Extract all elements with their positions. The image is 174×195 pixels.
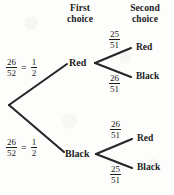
branch-red-to-red bbox=[95, 48, 131, 63]
fraction-numerator: 1 bbox=[31, 57, 38, 68]
fraction-denominator: 2 bbox=[31, 148, 38, 158]
fraction-numerator: 25 bbox=[110, 164, 121, 175]
fraction-denominator: 2 bbox=[31, 68, 38, 78]
column-header-second-choice-line1: Second bbox=[130, 3, 160, 13]
outcome-label-red-black: Black bbox=[136, 71, 159, 82]
column-header-second-choice: Second choice bbox=[118, 3, 172, 25]
outcome-label-red-red: Red bbox=[136, 42, 152, 53]
outcome-label-black-black: Black bbox=[137, 162, 160, 173]
fraction-1-2-black: 1 2 bbox=[31, 137, 38, 158]
column-header-first-choice: First choice bbox=[56, 3, 104, 25]
fraction-denominator: 52 bbox=[6, 148, 17, 158]
fraction-numerator: 26 bbox=[6, 57, 17, 68]
fraction-25-51-red-red: 25 51 bbox=[109, 29, 120, 50]
equals-sign-red: = bbox=[20, 63, 28, 73]
probability-first-choice-black: 26 52 = 1 2 bbox=[6, 137, 37, 158]
fraction-denominator: 51 bbox=[110, 175, 121, 185]
branch-black-to-red bbox=[96, 139, 132, 154]
node-label-first-red: Red bbox=[69, 57, 86, 68]
column-header-second-choice-line2: choice bbox=[132, 14, 158, 24]
fraction-numerator: 26 bbox=[6, 137, 17, 148]
probability-first-choice-red: 26 52 = 1 2 bbox=[6, 57, 37, 78]
fraction-denominator: 51 bbox=[109, 40, 120, 50]
fraction-denominator: 52 bbox=[6, 68, 17, 78]
fraction-numerator: 1 bbox=[31, 137, 38, 148]
node-label-first-black: Black bbox=[65, 148, 89, 159]
fraction-26-51-black-red: 26 51 bbox=[110, 119, 121, 140]
fraction-26-51-red-black: 26 51 bbox=[109, 73, 120, 94]
fraction-26-52-black: 26 52 bbox=[6, 137, 17, 158]
fraction-numerator: 26 bbox=[110, 119, 121, 130]
fraction-denominator: 51 bbox=[110, 130, 121, 140]
equals-sign-black: = bbox=[20, 143, 28, 153]
fraction-numerator: 25 bbox=[109, 29, 120, 40]
outcome-label-black-red: Red bbox=[137, 133, 153, 144]
column-header-first-choice-line2: choice bbox=[67, 14, 93, 24]
fraction-26-52-red: 26 52 bbox=[6, 57, 17, 78]
column-header-first-choice-line1: First bbox=[70, 3, 90, 13]
probability-tree-figure: First choice Second choice 26 52 = 1 2 2… bbox=[0, 0, 174, 195]
fraction-25-51-black-black: 25 51 bbox=[110, 164, 121, 185]
fraction-denominator: 51 bbox=[109, 84, 120, 94]
fraction-numerator: 26 bbox=[109, 73, 120, 84]
fraction-1-2-red: 1 2 bbox=[31, 57, 38, 78]
